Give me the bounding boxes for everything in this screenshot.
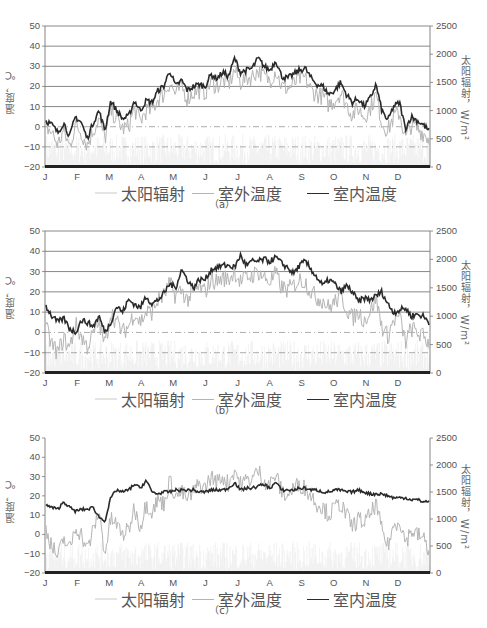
left-axis-tick-label: −20 [16, 567, 40, 578]
legend-item-indoor: 室内温度 [307, 587, 397, 611]
left-axis-tick-label: 50 [16, 432, 40, 443]
legend-label: 太阳辐射 [121, 587, 185, 611]
chart-panel-c: 50403020100−10−2025002000150010005000温度，… [0, 0, 487, 628]
left-axis-tick-label: 20 [16, 490, 40, 501]
left-axis-tick-label: 0 [16, 528, 40, 539]
left-axis-tick-label: 30 [16, 471, 40, 482]
right-axis-tick-label: 0 [436, 567, 466, 578]
legend-swatch-solar [95, 598, 117, 600]
legend-swatch-outdoor [192, 599, 214, 600]
panel-caption: （c） [202, 602, 242, 617]
left-axis-tick-label: 40 [16, 451, 40, 462]
right-axis-tick-label: 2500 [436, 432, 466, 443]
left-axis-tick-label: 10 [16, 509, 40, 520]
plot-area [0, 0, 487, 628]
left-axis-tick-label: −10 [16, 548, 40, 559]
outdoor-temperature-series [46, 466, 429, 558]
month-label: J [38, 577, 52, 588]
left-axis-title: 温度，℃ [3, 478, 18, 523]
legend-item-solar: 太阳辐射 [95, 587, 185, 611]
right-axis-title: 太阳辐射，W/m² [457, 464, 472, 550]
legend-swatch-indoor [307, 599, 329, 600]
x-axis [45, 571, 430, 574]
month-label: F [70, 577, 84, 588]
legend-label: 室内温度 [333, 587, 397, 611]
